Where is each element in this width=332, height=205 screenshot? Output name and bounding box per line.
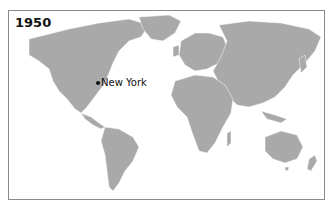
new-york-label: New York [101,77,147,88]
central-america-landmass [81,113,105,129]
southeast-asia-islands [261,111,287,123]
tasmania-landmass [285,167,289,171]
new-zealand-landmass [307,155,317,171]
north-america-landmass [29,19,149,113]
new-york-marker[interactable] [96,81,100,85]
world-map [9,11,325,200]
australia-landmass [265,131,303,163]
africa-landmass [171,75,233,153]
year-label: 1950 [15,15,51,30]
south-america-landmass [101,127,139,191]
uk-landmass [173,45,179,57]
madagascar-landmass [227,131,231,147]
greenland-landmass [139,15,181,41]
map-frame: 1950 [8,10,325,200]
